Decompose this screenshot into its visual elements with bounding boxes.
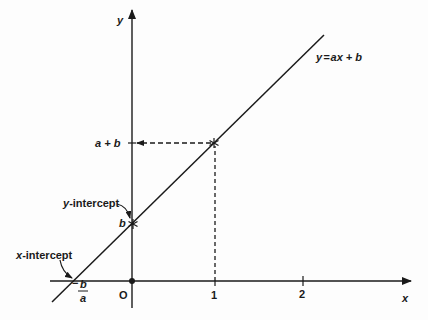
svg-text:−: − (72, 277, 78, 289)
x-tick-label-1: 1 (211, 289, 217, 301)
x-intercept-label: x-intercept (15, 249, 73, 261)
line-graph: y x O 1 2 y=ax + b a + b y-intercept b x… (0, 0, 428, 320)
y-axis-label: y (116, 14, 124, 26)
x-intercept-pointer (60, 260, 72, 278)
diagram-canvas: y x O 1 2 y=ax + b a + b y-intercept b x… (0, 0, 428, 320)
origin-dot (129, 278, 135, 284)
a-plus-b-label: a + b (95, 137, 121, 149)
line-y-ax-b (52, 35, 324, 302)
fraction-denominator: a (80, 292, 86, 304)
y-intercept-label: y-intercept (62, 197, 120, 209)
b-label: b (119, 217, 126, 229)
origin-label: O (119, 289, 128, 301)
fraction-numerator: b (80, 278, 87, 290)
neg-b-over-a-label: − b a (72, 277, 88, 304)
equation-label: y=ax + b (315, 51, 362, 63)
x-tick-label-2: 2 (299, 288, 305, 300)
x-axis-label: x (401, 292, 409, 304)
star-marker-b (129, 219, 138, 229)
bleed-through-text (0, 0, 428, 70)
